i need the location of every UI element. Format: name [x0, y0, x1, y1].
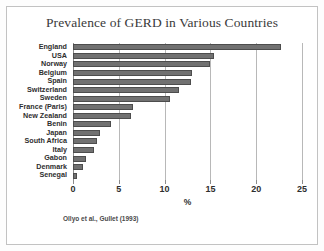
x-tick-label-15: 15	[205, 184, 215, 194]
category-label-senegal: Senegal	[7, 171, 70, 180]
bar-england	[73, 44, 281, 50]
y-axis-category-labels: EnglandUSANorwayBelgiumSpainSwitzerlandS…	[7, 43, 70, 180]
bar-japan	[73, 130, 100, 136]
bar-row	[73, 77, 302, 86]
bar-south-africa	[73, 138, 97, 144]
bar-norway	[73, 61, 210, 67]
bar-usa	[73, 53, 214, 59]
x-tick-label-0: 0	[70, 184, 75, 194]
bar-spain	[73, 79, 191, 85]
source-citation: Ollyo et al., Gullet (1993)	[63, 215, 139, 222]
bar-sweden	[73, 96, 170, 102]
bar-row	[73, 52, 302, 61]
bar-new-zealand	[73, 113, 131, 119]
x-tick-label-5: 5	[116, 184, 121, 194]
bar-row	[73, 146, 302, 155]
bar-row	[73, 103, 302, 112]
bar-row	[73, 154, 302, 163]
bar-switzerland	[73, 87, 179, 93]
bar-row	[73, 171, 302, 180]
x-tick-label-20: 20	[251, 184, 261, 194]
x-axis-ticks: 0510152025	[73, 180, 302, 196]
bar-series	[73, 43, 302, 180]
plot-area	[73, 43, 302, 180]
bar-row	[73, 120, 302, 129]
bar-row	[73, 137, 302, 146]
bar-row	[73, 69, 302, 78]
chart-frame: Prevalence of GERD in Various Countries …	[6, 6, 318, 245]
bar-row	[73, 86, 302, 95]
x-axis-label: %	[73, 197, 302, 207]
bar-row	[73, 163, 302, 172]
bar-row	[73, 129, 302, 138]
chart-title: Prevalence of GERD in Various Countries	[7, 15, 317, 31]
bar-gabon	[73, 156, 86, 162]
x-tick-label-10: 10	[160, 184, 170, 194]
bar-row	[73, 43, 302, 52]
bar-row	[73, 112, 302, 121]
bar-france-paris	[73, 104, 133, 110]
bar-belgium	[73, 70, 192, 76]
bar-denmark	[73, 164, 83, 170]
bar-benin	[73, 121, 111, 127]
bar-italy	[73, 147, 94, 153]
bar-senegal	[73, 173, 77, 179]
x-tick-label-25: 25	[297, 184, 307, 194]
bar-row	[73, 94, 302, 103]
gridline-25	[302, 43, 303, 182]
bar-row	[73, 60, 302, 69]
chart-figure: Prevalence of GERD in Various Countries …	[0, 0, 324, 251]
